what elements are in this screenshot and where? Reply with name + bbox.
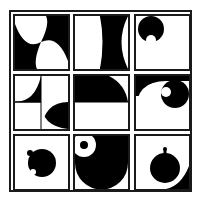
cell-r1c1[interactable]	[13, 14, 70, 71]
cell-r2c3[interactable]	[134, 74, 191, 131]
cell-r2c2[interactable]	[73, 74, 130, 131]
stem-circle-icon	[136, 136, 189, 189]
eye-corner-icon	[136, 76, 189, 129]
bump-circle-icon	[15, 136, 68, 189]
cell-r1c2[interactable]	[73, 14, 130, 71]
hourglass-arcs-icon	[75, 16, 128, 69]
circle-notch-icon	[136, 16, 189, 69]
cell-r1c3[interactable]	[134, 14, 191, 71]
cell-r3c2[interactable]	[73, 134, 130, 191]
cell-r3c3[interactable]	[134, 134, 191, 191]
split-arcs-icon	[15, 76, 68, 129]
cell-r3c1[interactable]	[13, 134, 70, 191]
semicircle-eye-icon	[75, 136, 128, 189]
half-block-icon	[75, 76, 128, 129]
pinwheel-shape-icon	[15, 16, 68, 69]
cell-r2c1[interactable]	[13, 74, 70, 131]
